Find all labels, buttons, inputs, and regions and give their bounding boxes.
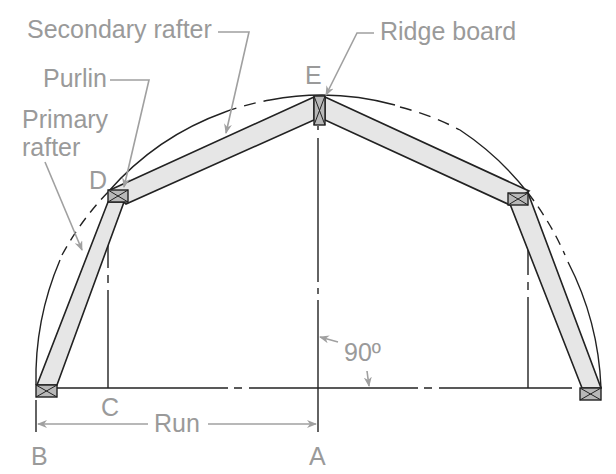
purlin-block-left — [108, 190, 128, 202]
secondary-rafter-right — [325, 97, 529, 205]
label-point-b: B — [31, 442, 48, 470]
plate-block-left — [36, 385, 57, 397]
leader-secondary-rafter — [218, 32, 249, 133]
angle-arrow-vertical — [320, 337, 338, 342]
label-point-c: C — [101, 393, 119, 421]
leader-primary-rafter — [45, 162, 82, 250]
label-primary-rafter-2: rafter — [22, 133, 80, 161]
leader-purlin — [110, 80, 149, 187]
primary-rafter-right — [510, 193, 601, 388]
label-point-e: E — [305, 61, 322, 89]
label-secondary-rafter: Secondary rafter — [27, 15, 212, 43]
purlin-block-right — [508, 193, 528, 205]
label-ridge-board: Ridge board — [380, 17, 516, 45]
ridge-board-block — [314, 96, 325, 125]
angle-arrow-horizontal — [367, 371, 369, 386]
primary-rafter-left — [37, 202, 124, 385]
label-angle-90: 90º — [344, 338, 381, 366]
label-point-a: A — [309, 442, 326, 470]
leader-ridge-board — [326, 33, 374, 95]
label-purlin: Purlin — [43, 64, 107, 92]
label-primary-rafter-1: Primary — [22, 105, 109, 133]
label-run: Run — [154, 409, 200, 437]
gambrel-roof-diagram: Secondary rafter Purlin Primary rafter R… — [0, 0, 616, 474]
label-point-d: D — [89, 166, 107, 194]
plate-block-right — [580, 388, 601, 400]
